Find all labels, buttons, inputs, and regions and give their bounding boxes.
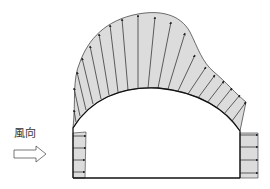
roof-pressure-distribution: [73, 13, 246, 131]
windward-wall-pressure: [73, 132, 86, 178]
greenhouse-outline: [73, 128, 240, 178]
wind-pressure-diagram: [0, 0, 270, 189]
leeward-wall-pressure: [240, 133, 258, 178]
wind-direction-arrow: [14, 146, 46, 162]
